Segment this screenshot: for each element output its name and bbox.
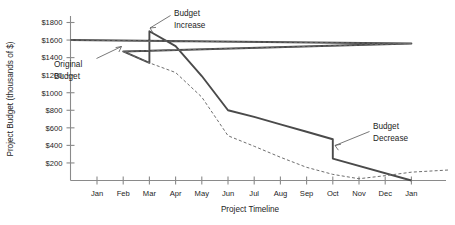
annotation-budget-increase-line1: Budget	[174, 9, 201, 18]
data-series-layer	[71, 31, 450, 180]
x-tick-label: Jan	[91, 189, 103, 198]
annotation-budget-increase-line2: Increase	[174, 21, 206, 30]
x-tick-label: May	[195, 189, 210, 198]
budget-increase-leader	[150, 16, 171, 29]
annotation-budget-decrease-line1: Budget	[373, 122, 400, 131]
annotation-leaders	[97, 16, 370, 151]
x-tick-label: Aug	[274, 189, 288, 198]
x-tick-label: Apr	[170, 189, 182, 198]
annotation-budget-decrease-line2: Decrease	[373, 134, 408, 143]
y-axis-title: Project Budget (thousands of $)	[6, 41, 15, 156]
chart-svg: $200$400$600$800$1000$1200$1400$1600$180…	[0, 0, 455, 225]
y-axis-tick-labels: $200$400$600$800$1000$1200$1400$1600$180…	[41, 18, 62, 167]
y-tick-label: $1800	[41, 18, 62, 27]
x-tick-label: Mar	[143, 189, 157, 198]
y-tick-label: $1000	[41, 89, 62, 98]
annotation-original-budget-line1: Original	[54, 60, 82, 69]
x-tick-label: Jul	[249, 189, 259, 198]
y-tick-label: $600	[46, 124, 63, 133]
y-tick-label: $200	[46, 159, 63, 168]
series-original-budget	[71, 40, 450, 179]
budget-decrease-leader	[335, 132, 370, 146]
annotation-original-budget-line2: Budget	[54, 72, 81, 81]
budget-decrease-arrowhead	[335, 144, 341, 150]
y-tick-label: $1600	[41, 36, 62, 45]
x-tick-label: Nov	[352, 189, 366, 198]
annotation-labels: Original Budget Budget Increase Budget D…	[54, 9, 408, 143]
x-tick-label: Oct	[327, 189, 340, 198]
x-tick-label: Dec	[378, 189, 392, 198]
budget-chart: $200$400$600$800$1000$1200$1400$1600$180…	[0, 0, 455, 225]
y-tick-label: $400	[46, 141, 63, 150]
x-tick-label: Sep	[300, 189, 314, 198]
x-tick-label: Jun	[222, 189, 234, 198]
x-tick-label: Feb	[117, 189, 130, 198]
x-tick-label: Jan	[405, 189, 417, 198]
x-axis-title: Project Timeline	[221, 205, 280, 214]
x-axis-tick-labels: JanFebMarAprMayJunJulAugSepOctNovDecJan	[91, 189, 418, 198]
y-tick-label: $800	[46, 106, 63, 115]
original-budget-leader	[97, 47, 122, 59]
series-revised-budget	[71, 31, 412, 180]
